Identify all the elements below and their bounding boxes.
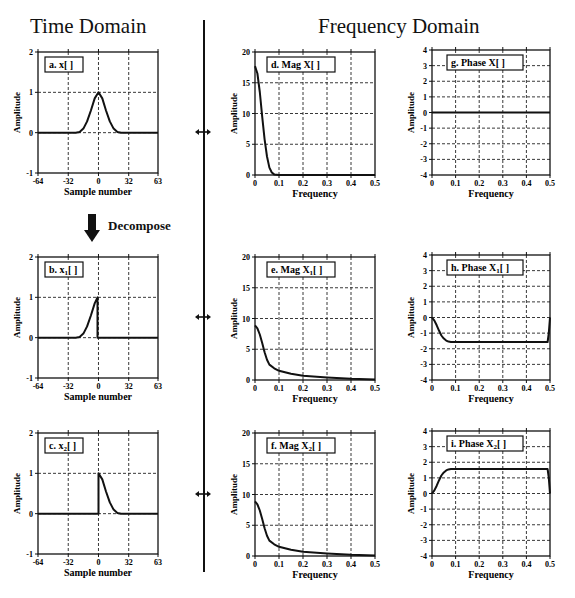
decompose-label: Decompose (108, 218, 171, 234)
svg-text:0.4: 0.4 (521, 560, 531, 569)
svg-text:1: 1 (423, 93, 427, 102)
svg-text:Amplitude: Amplitude (12, 473, 22, 514)
svg-text:0: 0 (430, 384, 434, 393)
svg-text:-64: -64 (33, 382, 44, 391)
svg-text:-32: -32 (63, 382, 74, 391)
svg-text:-32: -32 (63, 558, 74, 567)
svg-text:0.5: 0.5 (370, 179, 380, 188)
svg-text:Amplitude: Amplitude (229, 298, 239, 339)
chart-e: 00.10.20.30.40.505101520FrequencyAmplitu… (210, 245, 400, 405)
svg-text:10: 10 (242, 491, 250, 500)
svg-text:1: 1 (423, 298, 427, 307)
svg-text:5: 5 (246, 140, 250, 149)
svg-text:20: 20 (242, 48, 250, 57)
svg-text:1: 1 (29, 293, 33, 302)
svg-text:0.1: 0.1 (451, 560, 461, 569)
svg-text:0.4: 0.4 (346, 560, 356, 569)
svg-text:g. Phase X[ ]: g. Phase X[ ] (451, 57, 505, 68)
svg-text:0: 0 (29, 334, 33, 343)
svg-text:Frequency: Frequency (292, 188, 337, 199)
svg-text:-4: -4 (420, 552, 427, 561)
svg-text:0.4: 0.4 (346, 179, 356, 188)
svg-text:0: 0 (430, 179, 434, 188)
svg-text:d. Mag X[ ]: d. Mag X[ ] (271, 59, 320, 70)
svg-text:0: 0 (423, 109, 427, 118)
svg-text:32: 32 (125, 558, 133, 567)
svg-text:Frequency: Frequency (292, 393, 337, 404)
svg-text:0.2: 0.2 (474, 179, 484, 188)
svg-text:0.5: 0.5 (545, 560, 555, 569)
svg-text:2: 2 (29, 48, 33, 57)
svg-text:Frequency: Frequency (292, 569, 337, 580)
svg-text:63: 63 (154, 558, 162, 567)
svg-text:0: 0 (29, 129, 33, 138)
svg-text:-1: -1 (420, 329, 427, 338)
svg-text:0.3: 0.3 (322, 384, 332, 393)
svg-text:3: 3 (423, 443, 427, 452)
svg-text:-64: -64 (33, 558, 44, 567)
svg-text:Frequency: Frequency (468, 569, 513, 580)
svg-text:0: 0 (96, 382, 100, 391)
svg-text:Sample number: Sample number (64, 186, 133, 197)
svg-text:-3: -3 (420, 360, 427, 369)
svg-text:0.4: 0.4 (521, 384, 531, 393)
svg-text:4: 4 (423, 46, 427, 55)
svg-text:63: 63 (154, 177, 162, 186)
svg-text:10: 10 (242, 315, 250, 324)
svg-text:20: 20 (242, 253, 250, 262)
svg-text:2: 2 (423, 77, 427, 86)
svg-text:2: 2 (29, 429, 33, 438)
svg-text:-1: -1 (420, 124, 427, 133)
svg-text:0.2: 0.2 (298, 560, 308, 569)
svg-text:0: 0 (423, 314, 427, 323)
svg-text:0.1: 0.1 (451, 384, 461, 393)
svg-text:-32: -32 (63, 177, 74, 186)
svg-text:-4: -4 (420, 171, 427, 180)
svg-text:-4: -4 (420, 376, 427, 385)
svg-text:2: 2 (29, 253, 33, 262)
chart-c: -64-3203263-1012Sample numberAmplitudec.… (0, 421, 200, 581)
svg-text:0.3: 0.3 (322, 560, 332, 569)
svg-text:0.1: 0.1 (274, 179, 284, 188)
svg-text:-2: -2 (420, 521, 427, 530)
svg-text:0.5: 0.5 (370, 560, 380, 569)
chart-g: 00.10.20.30.40.5-4-3-2-101234FrequencyAm… (400, 40, 575, 200)
svg-text:10: 10 (242, 110, 250, 119)
svg-text:0.4: 0.4 (521, 179, 531, 188)
svg-text:0: 0 (423, 490, 427, 499)
svg-text:0.5: 0.5 (545, 179, 555, 188)
svg-text:-64: -64 (33, 177, 44, 186)
svg-text:0.5: 0.5 (370, 384, 380, 393)
svg-text:Frequency: Frequency (468, 393, 513, 404)
svg-text:-1: -1 (26, 169, 33, 178)
svg-text:-3: -3 (420, 536, 427, 545)
svg-text:0.3: 0.3 (498, 560, 508, 569)
svg-text:0: 0 (246, 171, 250, 180)
svg-text:0.2: 0.2 (298, 384, 308, 393)
svg-text:15: 15 (242, 284, 250, 293)
svg-text:0.3: 0.3 (498, 384, 508, 393)
frequency-domain-heading: Frequency Domain (318, 14, 480, 39)
svg-text:-1: -1 (26, 374, 33, 383)
svg-text:0.1: 0.1 (451, 179, 461, 188)
svg-text:Amplitude: Amplitude (229, 474, 239, 515)
svg-text:a. x[ ]: a. x[ ] (49, 59, 73, 70)
svg-text:-2: -2 (420, 345, 427, 354)
svg-text:Amplitude: Amplitude (12, 92, 22, 133)
svg-text:0.2: 0.2 (474, 560, 484, 569)
svg-text:15: 15 (242, 79, 250, 88)
svg-text:0.3: 0.3 (322, 179, 332, 188)
svg-text:0: 0 (96, 177, 100, 186)
svg-text:3: 3 (423, 62, 427, 71)
chart-a: -64-3203263-1012Sample numberAmplitudea.… (0, 40, 200, 200)
svg-text:2: 2 (423, 458, 427, 467)
svg-text:0: 0 (253, 560, 257, 569)
svg-text:Amplitude: Amplitude (406, 92, 416, 133)
svg-text:1: 1 (29, 469, 33, 478)
svg-text:20: 20 (242, 429, 250, 438)
svg-text:Amplitude: Amplitude (406, 473, 416, 514)
svg-text:Amplitude: Amplitude (406, 297, 416, 338)
svg-text:0.1: 0.1 (274, 560, 284, 569)
chart-h: 00.10.20.30.40.5-4-3-2-101234FrequencyAm… (400, 245, 575, 405)
svg-text:0: 0 (96, 558, 100, 567)
